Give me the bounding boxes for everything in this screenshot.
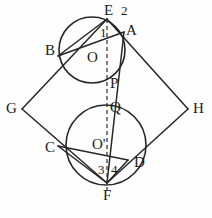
point-label-O-prime: O' — [92, 137, 106, 152]
point-label-P: P — [110, 76, 118, 91]
angle-label-4: 4 — [111, 163, 118, 176]
point-label-O: O — [87, 50, 98, 65]
circle-lower — [66, 105, 146, 185]
segment-H-F — [107, 109, 188, 183]
point-label-Q: Q — [110, 100, 121, 115]
point-label-B: B — [45, 43, 55, 58]
point-label-H: H — [193, 101, 204, 116]
angle-label-3: 3 — [98, 163, 105, 176]
point-label-G: G — [6, 101, 17, 116]
point-label-F: F — [103, 188, 111, 203]
point-label-A: A — [126, 23, 137, 38]
point-label-C: C — [45, 140, 55, 155]
angle-label-1: 1 — [100, 26, 107, 39]
point-label-E: E — [104, 3, 113, 18]
angle-label-2: 2 — [121, 4, 128, 17]
geometry-figure: EABOPQGHCO'DF1234 — [0, 0, 212, 218]
point-label-D: D — [134, 155, 145, 170]
